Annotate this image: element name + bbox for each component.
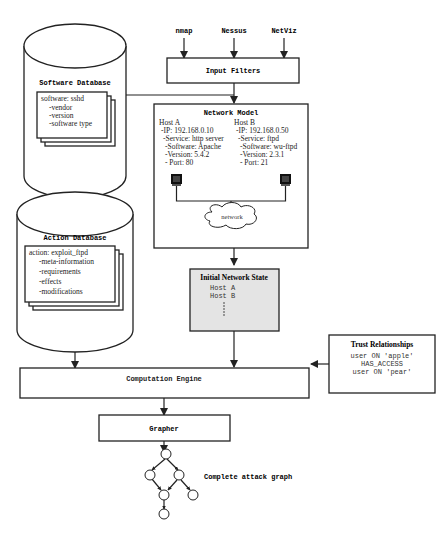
graph-node (159, 509, 169, 519)
graph-node (161, 449, 171, 459)
computation-engine-text: Computation Engine (126, 375, 202, 383)
grapher-label: Grapher (149, 425, 178, 433)
graph-node (159, 490, 169, 500)
grapher-box: Grapher (99, 415, 230, 441)
graph-node (145, 470, 155, 480)
attack-graph-label: Complete attack graph (204, 473, 292, 481)
lower-diagram: Computation Engine Grapher Complete atta… (0, 0, 447, 534)
graph-node (174, 470, 184, 480)
attack-graph-icon (145, 449, 198, 519)
graph-node (188, 490, 198, 500)
